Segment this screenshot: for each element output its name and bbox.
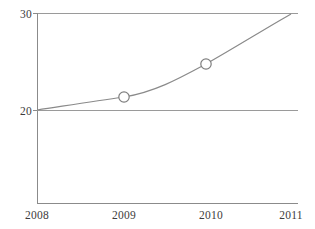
x-tick-label-2010: 2010 [199,209,223,221]
chart-canvas: 30 20 2008 2009 2010 2011 [0,0,315,229]
data-point-marker-2009[interactable] [119,92,129,102]
y-tick-label-30: 30 [20,8,32,20]
data-series-line [37,14,291,110]
line-chart-figure: 30 20 2008 2009 2010 2011 [0,0,315,229]
data-point-marker-2010[interactable] [201,59,211,69]
x-tick-label-2009: 2009 [112,209,136,221]
x-tick-label-2011: 2011 [279,209,302,221]
y-tick-label-20: 20 [20,105,32,117]
x-tick-label-2008: 2008 [25,209,49,221]
